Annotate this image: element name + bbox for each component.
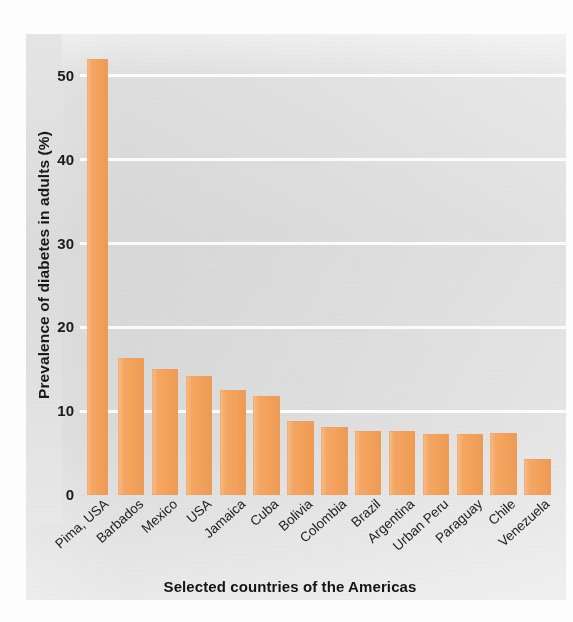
bars-layer	[80, 34, 566, 495]
y-tick-label: 30	[40, 236, 74, 251]
bar	[490, 433, 516, 495]
bar	[87, 59, 108, 495]
chart-figure: Prevalence of diabetes in adults (%) 010…	[0, 0, 573, 622]
y-tick-label: 10	[40, 403, 74, 418]
x-axis-tick-labels: Pima, USABarbadosMexicoUSAJamaicaCubaBol…	[80, 497, 566, 585]
bar	[524, 459, 550, 495]
bar	[321, 427, 347, 495]
x-axis-title: Selected countries of the Americas	[80, 578, 500, 595]
bar	[457, 434, 483, 495]
bar	[186, 376, 212, 495]
y-tick-label: 0	[40, 487, 74, 502]
bar	[389, 431, 415, 495]
y-tick-label: 20	[40, 319, 74, 334]
x-tick-label: Mexico	[139, 497, 180, 536]
bar	[118, 358, 144, 495]
bar	[355, 431, 381, 495]
y-tick-label: 50	[40, 68, 74, 83]
bar	[423, 434, 449, 495]
bar	[220, 390, 246, 495]
bar	[253, 396, 279, 495]
bar	[287, 421, 313, 495]
y-tick-label: 40	[40, 152, 74, 167]
x-tick-label-text: Mexico	[139, 497, 180, 536]
y-axis-tick-labels: 01020304050	[38, 34, 74, 504]
bar	[152, 369, 178, 495]
